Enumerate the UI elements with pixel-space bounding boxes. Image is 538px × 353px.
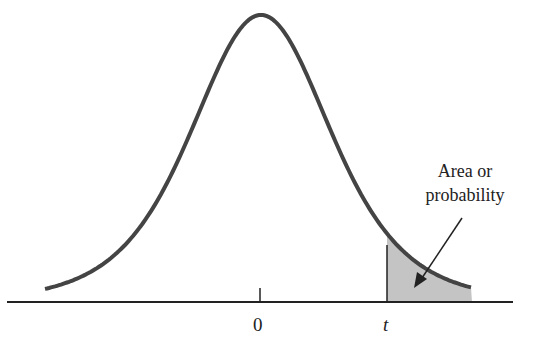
annotation-text: Area or probability [420,159,510,207]
density-curve [45,15,471,289]
axis-label-zero: 0 [253,314,263,336]
axis-label-t: t [383,314,388,336]
annotation-arrow [420,218,462,281]
annotation-line-2: probability [420,183,510,207]
t-distribution-diagram: 0 t Area or probability [0,0,538,353]
annotation-line-1: Area or [420,159,510,183]
